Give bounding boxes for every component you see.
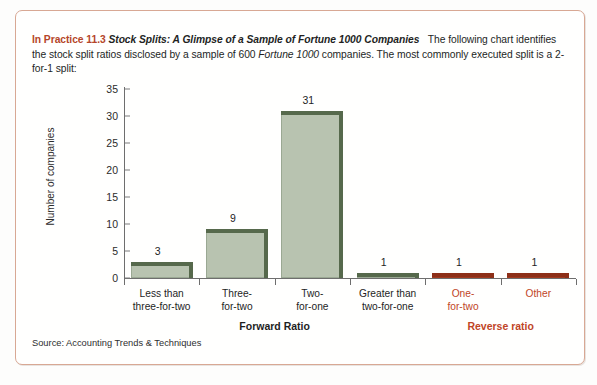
y-axis-tick-label: 0 bbox=[92, 272, 118, 284]
category-label-line1: Three- bbox=[222, 288, 252, 299]
category-separator bbox=[350, 279, 351, 285]
y-axis-tick-mark bbox=[125, 143, 130, 144]
y-axis-tick-label: 30 bbox=[92, 110, 118, 122]
bar-side-face bbox=[264, 229, 268, 278]
y-axis-tick-mark bbox=[125, 170, 130, 171]
y-axis-tick-label: 20 bbox=[92, 164, 118, 176]
category-separator bbox=[124, 279, 125, 285]
bar-value-label: 3 bbox=[155, 245, 161, 257]
y-axis-tick-label: 10 bbox=[92, 218, 118, 230]
category-label-6: Other bbox=[526, 288, 551, 301]
category-label-1: Less thanthree-for-two bbox=[133, 288, 191, 313]
bar-side-face bbox=[415, 273, 419, 278]
group-title-rev: Reverse ratio bbox=[467, 320, 534, 332]
source-note: Source: Accounting Trends & Techniques bbox=[32, 338, 201, 348]
y-axis-tick-label: 35 bbox=[92, 83, 118, 95]
in-practice-panel: In Practice 11.3 Stock Splits: A Glimpse… bbox=[15, 10, 585, 365]
bar-value-label: 1 bbox=[456, 256, 462, 268]
group-title-fwd: Forward Ratio bbox=[239, 320, 310, 332]
bar-side-face bbox=[565, 273, 569, 278]
bar-5 bbox=[432, 273, 494, 278]
y-axis-tick-label: 5 bbox=[92, 245, 118, 257]
y-axis-tick-label: 25 bbox=[92, 137, 118, 149]
bar-face bbox=[281, 111, 343, 278]
bar-value-label: 1 bbox=[531, 256, 537, 268]
bar-4 bbox=[357, 273, 419, 278]
bar-top-face bbox=[281, 111, 343, 115]
bar-6 bbox=[507, 273, 569, 278]
category-separator bbox=[501, 279, 502, 285]
y-axis-tick-mark bbox=[125, 197, 130, 198]
bar-value-label: 9 bbox=[230, 212, 236, 224]
bar-value-label: 1 bbox=[381, 256, 387, 268]
category-label-line1: Other bbox=[526, 288, 551, 299]
category-label-line1: Less than bbox=[140, 288, 184, 299]
y-axis-title: Number of companies bbox=[45, 107, 56, 247]
bar-top-face bbox=[131, 262, 193, 266]
category-label-2: Three-for-two bbox=[221, 288, 252, 313]
y-axis-tick-mark bbox=[125, 251, 130, 252]
category-label-5: One-for-two bbox=[447, 288, 478, 313]
category-label-line1: Two- bbox=[301, 288, 323, 299]
category-separator bbox=[576, 279, 577, 285]
y-axis-tick-mark bbox=[125, 278, 130, 279]
bar-top-face bbox=[357, 273, 419, 277]
category-label-line2: for-two bbox=[221, 301, 252, 312]
bar-3 bbox=[281, 111, 343, 278]
category-label-line1: Greater than bbox=[359, 288, 416, 299]
y-axis-tick-mark bbox=[125, 224, 130, 225]
y-axis-tick-label: 15 bbox=[92, 191, 118, 203]
category-separator bbox=[425, 279, 426, 285]
bar-side-face bbox=[189, 262, 193, 278]
bar-1 bbox=[131, 262, 193, 278]
bar-2 bbox=[206, 229, 268, 278]
category-label-line2: three-for-two bbox=[133, 301, 191, 312]
category-label-line2: for-two bbox=[447, 301, 478, 312]
category-label-line2: two-for-one bbox=[362, 301, 414, 312]
bar-top-face bbox=[432, 273, 494, 277]
y-axis-tick-mark bbox=[125, 89, 130, 90]
category-label-line1: One- bbox=[452, 288, 475, 299]
bar-top-face bbox=[206, 229, 268, 233]
bar-top-face bbox=[507, 273, 569, 277]
category-label-4: Greater thantwo-for-one bbox=[359, 288, 416, 313]
bar-face bbox=[206, 229, 268, 278]
category-separator bbox=[199, 279, 200, 285]
bar-side-face bbox=[339, 111, 343, 278]
category-label-line2: for-one bbox=[296, 301, 328, 312]
bar-value-label: 31 bbox=[302, 94, 314, 106]
bar-side-face bbox=[490, 273, 494, 278]
y-axis-tick-mark bbox=[125, 116, 130, 117]
category-separator bbox=[275, 279, 276, 285]
stock-split-bar-chart: Number of companies 051015202530353Less … bbox=[16, 11, 586, 366]
category-label-3: Two-for-one bbox=[296, 288, 328, 313]
